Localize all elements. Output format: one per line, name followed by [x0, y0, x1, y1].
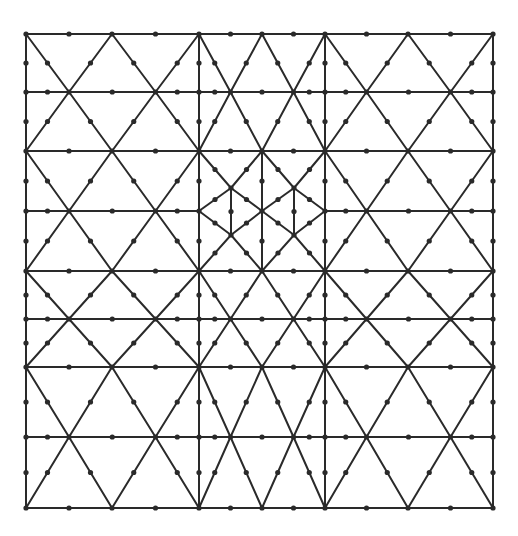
mesh-node [307, 340, 312, 345]
mesh-node [228, 268, 233, 273]
mesh-node [244, 119, 249, 124]
mesh-node [322, 292, 327, 297]
mesh-node [131, 60, 136, 65]
mesh-node [469, 89, 474, 94]
mesh-node [153, 505, 158, 510]
mesh-node [469, 434, 474, 439]
mesh-node [109, 268, 114, 273]
mesh-node [490, 178, 495, 183]
mesh-node [196, 31, 201, 36]
mesh-node [212, 119, 217, 124]
mesh-node [364, 316, 369, 321]
mesh-node [228, 434, 233, 439]
mesh-node [131, 470, 136, 475]
mesh-node [406, 316, 411, 321]
mesh-node [405, 505, 410, 510]
mesh-node [23, 178, 28, 183]
mesh-node [244, 60, 249, 65]
mesh-node [212, 434, 217, 439]
mesh-node [45, 340, 50, 345]
mesh-node [153, 208, 158, 213]
mesh-node [448, 268, 453, 273]
mesh-node [469, 208, 474, 213]
mesh-node [469, 119, 474, 124]
mesh-node [23, 316, 28, 321]
mesh-node [259, 89, 264, 94]
mesh-node [153, 31, 158, 36]
mesh-node [45, 238, 50, 243]
mesh-node [427, 238, 432, 243]
mesh-node [291, 148, 296, 153]
mesh-node [322, 316, 327, 321]
mesh-node [109, 505, 114, 510]
mesh-node [131, 119, 136, 124]
mesh-node [322, 31, 327, 36]
mesh-node [275, 250, 280, 255]
mesh-node [175, 238, 180, 243]
mesh-node [259, 148, 264, 153]
mesh-node [23, 208, 28, 213]
triangular-mesh-diagram [0, 0, 518, 536]
mesh-node [109, 364, 114, 369]
mesh-node [307, 119, 312, 124]
mesh-node [490, 316, 495, 321]
mesh-node [322, 238, 327, 243]
mesh-node [448, 434, 453, 439]
mesh-node [23, 340, 28, 345]
mesh-node [469, 60, 474, 65]
mesh-node [427, 470, 432, 475]
mesh-node [259, 364, 264, 369]
mesh-node [448, 364, 453, 369]
mesh-node [196, 434, 201, 439]
mesh-node [23, 148, 28, 153]
mesh-node [385, 178, 390, 183]
mesh-node [23, 119, 28, 124]
mesh-node [212, 399, 217, 404]
mesh-node [322, 89, 327, 94]
mesh-node [45, 470, 50, 475]
mesh-node [385, 292, 390, 297]
mesh-node [196, 268, 201, 273]
mesh-node [307, 399, 312, 404]
mesh-node [322, 119, 327, 124]
mesh-node [364, 364, 369, 369]
mesh-node [469, 399, 474, 404]
mesh-node [291, 209, 296, 214]
mesh-node [469, 470, 474, 475]
mesh-node [228, 89, 233, 94]
mesh-node [131, 238, 136, 243]
mesh-node [110, 316, 115, 321]
mesh-node [88, 60, 93, 65]
mesh-node [343, 340, 348, 345]
mesh-node [196, 208, 201, 213]
mesh-node [291, 31, 296, 36]
mesh-node [275, 292, 280, 297]
mesh-node [196, 119, 201, 124]
mesh-node [153, 434, 158, 439]
mesh-node [427, 399, 432, 404]
mesh-node [490, 148, 495, 153]
mesh-node [291, 89, 296, 94]
mesh-node [490, 505, 495, 510]
mesh-node [406, 434, 411, 439]
mesh-node [23, 292, 28, 297]
mesh-node [131, 178, 136, 183]
mesh-node [307, 89, 312, 94]
mesh-node [196, 178, 201, 183]
mesh-node [385, 470, 390, 475]
mesh-node [175, 178, 180, 183]
mesh-node [490, 238, 495, 243]
mesh-node [66, 31, 71, 36]
mesh-node [322, 208, 327, 213]
mesh-node [322, 340, 327, 345]
mesh-node [228, 185, 233, 190]
mesh-node [66, 364, 71, 369]
mesh-node [490, 119, 495, 124]
mesh-node [88, 470, 93, 475]
mesh-node [110, 208, 115, 213]
mesh-node [23, 60, 28, 65]
mesh-node [88, 119, 93, 124]
mesh-node [175, 208, 180, 213]
mesh-node [244, 399, 249, 404]
mesh-node [448, 89, 453, 94]
